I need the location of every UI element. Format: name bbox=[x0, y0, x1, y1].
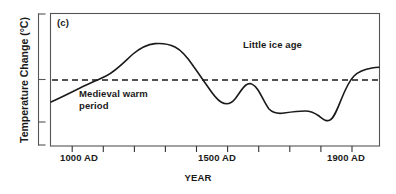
x-axis-tick-label-1500ad: 1500 AD bbox=[198, 152, 236, 163]
x-axis-tick-label-1900ad: 1900 AD bbox=[327, 152, 365, 163]
y-axis-bracket bbox=[39, 14, 46, 145]
panel-label: (c) bbox=[57, 17, 69, 28]
y-axis-title-wrap: Temperature Change (°C) bbox=[14, 5, 32, 155]
annotation-medieval-warm-period: Medieval warm period bbox=[79, 88, 159, 112]
climate-chart-figure: Temperature Change (°C) (c) Medieval war… bbox=[0, 0, 396, 194]
x-axis-tick-label-1000ad: 1000 AD bbox=[60, 152, 98, 163]
annotation-little-ice-age: Little ice age bbox=[243, 39, 302, 50]
y-axis-title: Temperature Change (°C) bbox=[18, 17, 30, 143]
chart-canvas bbox=[0, 0, 396, 194]
x-axis-title: YEAR bbox=[0, 172, 396, 183]
